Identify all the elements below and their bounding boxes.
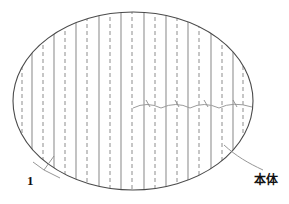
callout-label-honntai: 本体 bbox=[254, 174, 278, 186]
patent-figure-drawing bbox=[0, 0, 289, 204]
callout-label-1: 1 bbox=[27, 174, 34, 187]
caption-strip bbox=[0, 197, 289, 204]
figure-container: 1 本体 bbox=[0, 0, 289, 204]
